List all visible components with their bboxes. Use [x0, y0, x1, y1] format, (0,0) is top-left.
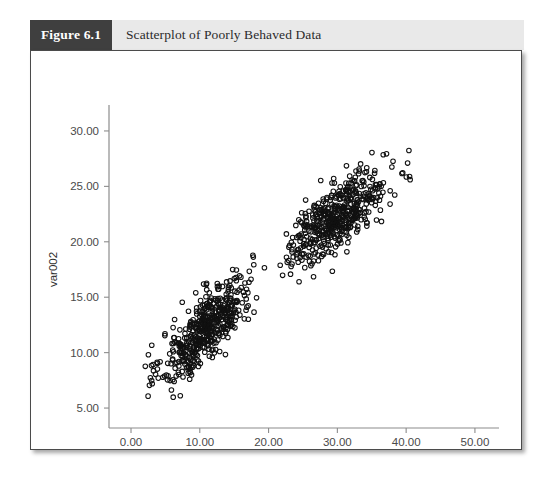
- y-tick-label: 15.00: [70, 291, 99, 303]
- data-point: [204, 287, 209, 292]
- figure-body-panel: 0.0010.0020.0030.0040.0050.005.0010.0015…: [30, 50, 522, 450]
- data-point: [302, 265, 307, 270]
- data-point: [198, 298, 203, 303]
- data-point: [358, 162, 363, 167]
- data-point: [171, 325, 176, 330]
- data-points-group: [143, 148, 412, 399]
- data-point: [330, 269, 335, 274]
- data-point: [262, 265, 267, 270]
- data-point: [278, 263, 283, 268]
- data-point: [333, 252, 338, 257]
- data-point: [331, 176, 336, 181]
- data-point: [146, 352, 151, 357]
- data-point: [143, 364, 148, 369]
- data-point: [155, 367, 160, 372]
- figure-card: Figure 6.1 Scatterplot of Poorly Behaved…: [30, 20, 524, 452]
- data-point: [165, 361, 170, 366]
- data-point: [240, 300, 245, 305]
- data-point: [318, 178, 323, 183]
- data-point: [404, 175, 409, 180]
- data-point: [193, 291, 198, 296]
- y-tick-label: 10.00: [70, 347, 99, 359]
- x-tick-label: 50.00: [461, 436, 490, 448]
- data-point: [171, 395, 176, 400]
- data-point: [251, 262, 256, 267]
- axis-ticks-group: 0.0010.0020.0030.0040.0050.005.0010.0015…: [70, 125, 489, 448]
- y-tick-label: 25.00: [70, 180, 99, 192]
- data-point: [280, 273, 285, 278]
- data-point: [370, 150, 375, 155]
- data-point: [169, 388, 174, 393]
- data-point: [388, 189, 393, 194]
- y-tick-label: 20.00: [70, 236, 99, 248]
- x-tick-label: 30.00: [323, 436, 352, 448]
- data-point: [307, 209, 312, 214]
- data-point: [223, 352, 228, 357]
- data-point: [247, 269, 252, 274]
- data-point: [379, 219, 384, 224]
- data-point: [181, 375, 186, 380]
- data-point: [180, 300, 185, 305]
- figure-caption: Scatterplot of Poorly Behaved Data: [112, 20, 524, 50]
- data-point: [284, 232, 289, 237]
- scatterplot-canvas: 0.0010.0020.0030.0040.0050.005.0010.0015…: [31, 51, 522, 450]
- data-point: [202, 350, 207, 355]
- scatterplot: 0.0010.0020.0030.0040.0050.005.0010.0015…: [31, 51, 522, 450]
- x-tick-label: 40.00: [392, 436, 421, 448]
- data-point: [297, 279, 302, 284]
- data-point: [238, 313, 243, 318]
- data-point: [374, 218, 379, 223]
- x-tick-label: 0.00: [120, 436, 142, 448]
- data-point: [405, 161, 410, 166]
- data-point: [378, 208, 383, 213]
- data-point: [345, 250, 350, 255]
- data-point: [288, 272, 293, 277]
- data-point: [254, 296, 259, 301]
- data-point: [344, 164, 349, 169]
- data-point: [388, 202, 393, 207]
- data-point: [186, 309, 191, 314]
- y-tick-label: 5.00: [77, 402, 99, 414]
- data-point: [178, 393, 183, 398]
- data-point: [146, 394, 151, 399]
- x-tick-label: 20.00: [254, 436, 283, 448]
- data-point: [311, 274, 316, 279]
- data-point: [338, 184, 343, 189]
- data-point: [294, 223, 299, 228]
- data-point: [368, 184, 373, 189]
- y-axis-title: var002: [47, 252, 59, 287]
- x-tick-label: 10.00: [185, 436, 214, 448]
- figure-header: Figure 6.1 Scatterplot of Poorly Behaved…: [30, 20, 524, 50]
- data-point: [153, 372, 158, 377]
- data-point: [407, 148, 412, 153]
- data-point: [172, 317, 177, 322]
- data-point: [316, 258, 321, 263]
- data-point: [346, 240, 351, 245]
- data-point: [178, 328, 183, 333]
- data-point: [204, 294, 209, 299]
- figure-number-label: Figure 6.1: [30, 20, 112, 50]
- data-point: [167, 352, 172, 357]
- data-point: [392, 193, 397, 198]
- data-point: [303, 198, 308, 203]
- data-point: [326, 250, 331, 255]
- data-point: [252, 310, 257, 315]
- data-point: [149, 343, 154, 348]
- data-point: [244, 308, 249, 313]
- data-point: [390, 165, 395, 170]
- y-tick-label: 30.00: [70, 125, 99, 137]
- data-point: [391, 159, 396, 164]
